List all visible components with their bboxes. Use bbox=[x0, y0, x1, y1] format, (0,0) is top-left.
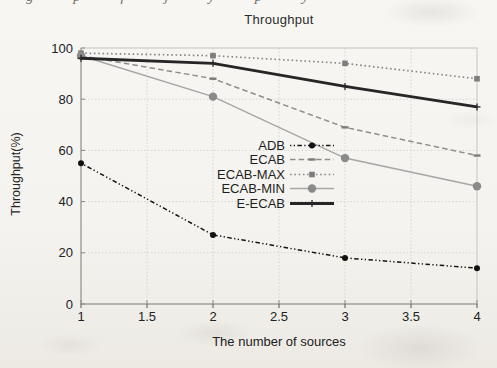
legend-label: ECAB-MIN bbox=[221, 181, 285, 196]
data-point-square bbox=[342, 61, 348, 67]
x-tick-label: 4 bbox=[473, 309, 480, 324]
data-point-dot bbox=[78, 160, 84, 166]
x-tick-label: 3.5 bbox=[402, 309, 420, 324]
x-tick-label: 1.5 bbox=[138, 309, 156, 324]
x-tick-label: 2.5 bbox=[270, 309, 288, 324]
y-axis-label: Throughput(%) bbox=[9, 92, 23, 256]
x-axis-label: The number of sources bbox=[81, 334, 477, 349]
legend-item-ecab-max: ECAB-MAX bbox=[178, 167, 334, 182]
legend-line-sample bbox=[290, 153, 334, 166]
legend-item-ecab-min: ECAB-MIN bbox=[178, 182, 334, 197]
y-tick-label: 100 bbox=[51, 41, 73, 56]
legend-label: E-ECAB bbox=[237, 196, 285, 211]
y-tick-label: 40 bbox=[59, 194, 73, 209]
legend: ADB ECAB ECAB-MAX ECAB-MIN E-ECAB bbox=[178, 138, 334, 211]
legend-label: ECAB bbox=[250, 152, 285, 167]
legend-item-ecab: ECAB bbox=[178, 153, 334, 168]
data-point-dot bbox=[309, 142, 315, 148]
scanned-figure-page: g p f j y p y Throughput 11.522.533.5402… bbox=[0, 0, 497, 368]
data-point-circle bbox=[473, 182, 481, 190]
x-tick-label: 3 bbox=[341, 309, 348, 324]
data-point-circle bbox=[341, 154, 349, 162]
data-point-circle bbox=[308, 185, 316, 193]
legend-item-e-ecab: E-ECAB bbox=[178, 196, 334, 211]
data-point-square bbox=[210, 53, 216, 59]
data-point-square bbox=[474, 76, 480, 82]
legend-line-sample bbox=[290, 168, 334, 181]
y-tick-label: 80 bbox=[59, 92, 73, 107]
y-tick-label: 20 bbox=[59, 245, 73, 260]
x-tick-label: 2 bbox=[209, 309, 216, 324]
y-tick-label: 60 bbox=[59, 143, 73, 158]
legend-line-sample bbox=[290, 139, 334, 152]
data-point-dot bbox=[474, 265, 480, 271]
legend-line-sample bbox=[290, 182, 334, 195]
data-point-dot bbox=[342, 255, 348, 261]
y-tick-label: 0 bbox=[66, 297, 73, 312]
data-point-circle bbox=[209, 92, 217, 100]
x-tick-label: 1 bbox=[77, 309, 84, 324]
data-point-dot bbox=[210, 232, 216, 238]
legend-label: ADB bbox=[258, 138, 285, 153]
legend-item-adb: ADB bbox=[178, 138, 334, 153]
legend-label: ECAB-MAX bbox=[217, 167, 285, 182]
data-point-square bbox=[309, 171, 315, 177]
legend-line-sample bbox=[290, 197, 334, 210]
